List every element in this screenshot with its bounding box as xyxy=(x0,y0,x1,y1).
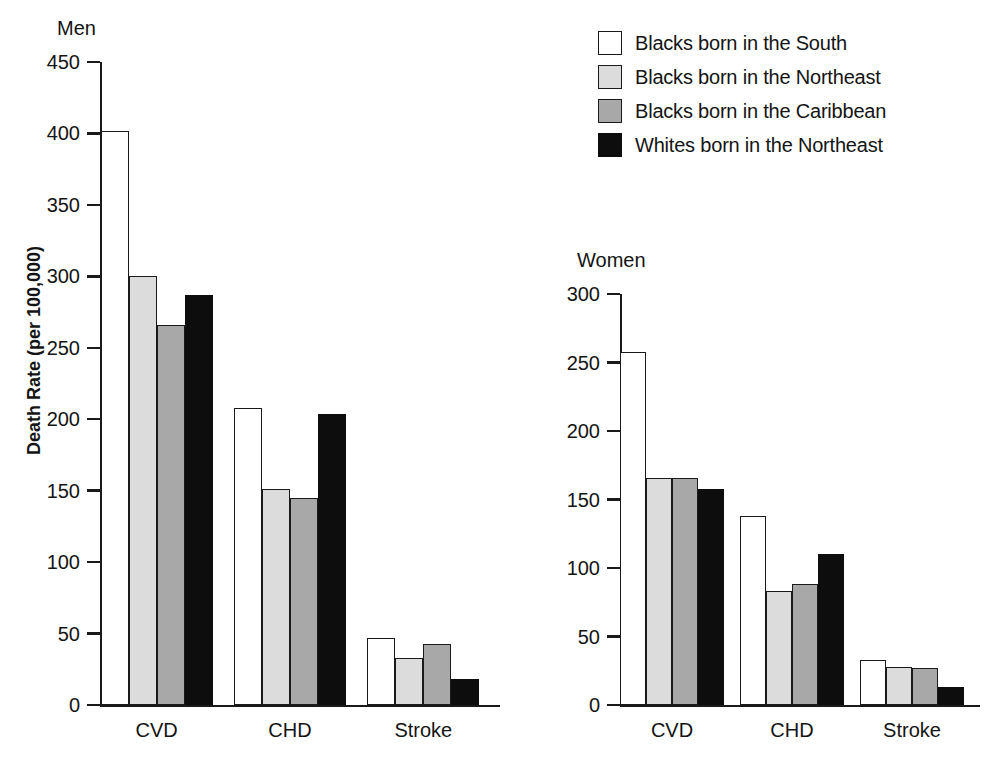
y-tick-mark xyxy=(87,561,100,563)
y-tick-mark xyxy=(87,61,100,63)
y-tick-label: 100 xyxy=(15,551,80,574)
x-category-label: Stroke xyxy=(394,719,452,742)
bar xyxy=(740,516,766,705)
panel-title-men: Men xyxy=(57,17,96,40)
y-tick-label: 150 xyxy=(535,488,600,511)
panel-title-women: Women xyxy=(577,249,646,272)
y-tick-mark xyxy=(87,347,100,349)
y-tick-mark xyxy=(607,430,620,432)
bar xyxy=(886,667,912,705)
y-tick-mark xyxy=(87,704,100,706)
y-tick-label: 300 xyxy=(15,265,80,288)
bar xyxy=(860,660,886,705)
bar xyxy=(620,352,646,705)
y-tick-label: 100 xyxy=(535,557,600,580)
bar xyxy=(395,658,423,705)
y-tick-label: 0 xyxy=(535,694,600,717)
plot-area-women: 300250200150100500 CVDCHDStroke xyxy=(620,294,980,707)
y-tick-label: 250 xyxy=(15,336,80,359)
x-axis-women xyxy=(620,705,980,707)
bar xyxy=(423,644,451,705)
y-tick-label: 200 xyxy=(15,408,80,431)
y-tick-mark xyxy=(607,635,620,637)
y-tick-mark xyxy=(87,632,100,634)
bar xyxy=(367,638,395,705)
bar xyxy=(157,325,185,705)
y-tick-label: 50 xyxy=(535,625,600,648)
bar xyxy=(672,478,698,705)
y-tick-mark xyxy=(607,704,620,706)
y-tick-label: 350 xyxy=(15,193,80,216)
figure-canvas: Blacks born in the South Blacks born in … xyxy=(0,0,1003,759)
y-tick-mark xyxy=(87,275,100,277)
bar xyxy=(234,408,262,705)
y-tick-mark xyxy=(607,361,620,363)
plot-area-men: 450400350300250200150100500 CVDCHDStroke xyxy=(100,62,500,707)
bar xyxy=(698,489,724,705)
bar xyxy=(818,554,844,705)
bar xyxy=(290,498,318,705)
bar xyxy=(646,478,672,705)
y-tick-mark xyxy=(87,489,100,491)
y-tick-label: 0 xyxy=(15,694,80,717)
bar xyxy=(766,591,792,705)
x-category-label: CHD xyxy=(268,719,311,742)
y-tick-label: 200 xyxy=(535,420,600,443)
y-tick-mark xyxy=(607,567,620,569)
y-tick-mark xyxy=(607,498,620,500)
y-tick-mark xyxy=(87,204,100,206)
y-tick-mark xyxy=(87,418,100,420)
x-category-label: Stroke xyxy=(883,719,941,742)
bar xyxy=(129,276,157,705)
y-tick-mark xyxy=(607,293,620,295)
y-tick-label: 400 xyxy=(15,122,80,145)
bar xyxy=(185,295,213,705)
x-category-label: CHD xyxy=(770,719,813,742)
bar xyxy=(262,489,290,705)
bar xyxy=(451,679,479,705)
y-tick-label: 150 xyxy=(15,479,80,502)
chart-panel-men: Men Death Rate (per 100,000) 45040035030… xyxy=(0,0,520,759)
bar xyxy=(792,584,818,705)
y-tick-label: 250 xyxy=(535,351,600,374)
bar xyxy=(318,414,346,705)
y-tick-label: 300 xyxy=(535,283,600,306)
bar xyxy=(101,131,129,705)
bar xyxy=(912,668,938,705)
y-tick-label: 50 xyxy=(15,622,80,645)
chart-panel-women: Women 300250200150100500 CVDCHDStroke xyxy=(520,0,1003,759)
bar xyxy=(938,687,964,705)
x-category-label: CVD xyxy=(651,719,693,742)
y-tick-mark xyxy=(87,132,100,134)
x-category-label: CVD xyxy=(136,719,178,742)
x-axis-men xyxy=(100,705,500,707)
y-tick-label: 450 xyxy=(15,51,80,74)
